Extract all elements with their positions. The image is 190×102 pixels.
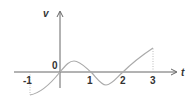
- v-axis-label: v: [43, 8, 50, 19]
- t-axis-label: t: [181, 67, 185, 78]
- tick-label-minus-1: -1: [23, 75, 32, 86]
- tick-label-3: 3: [150, 75, 156, 86]
- waveform-graph: v t 0 -1 1 2 3: [0, 0, 190, 102]
- origin-label: 0: [52, 60, 58, 71]
- tick-label-1: 1: [87, 75, 93, 86]
- tick-label-2: 2: [120, 75, 126, 86]
